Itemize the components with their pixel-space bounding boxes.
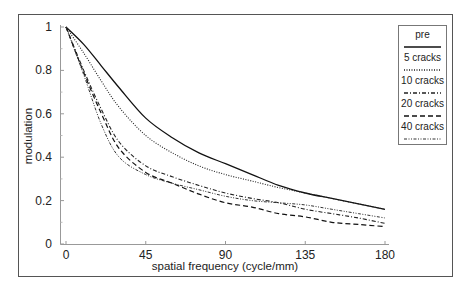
legend-label-pre: pre bbox=[415, 29, 430, 40]
x-axis-title: spatial frequency (cycle/mm) bbox=[152, 260, 299, 272]
axes bbox=[61, 25, 390, 245]
series-group bbox=[66, 27, 385, 227]
x-tick-label: 0 bbox=[63, 248, 70, 262]
series-line-40-cracks bbox=[66, 27, 385, 218]
series-line-20-cracks bbox=[66, 27, 385, 227]
y-tick-label: 0.8 bbox=[35, 63, 52, 77]
y-tick-label: 0.6 bbox=[35, 107, 52, 121]
outer-frame bbox=[19, 15, 453, 277]
legend-label-40-cracks: 40 cracks bbox=[401, 121, 444, 132]
y-tick-label: 0.2 bbox=[35, 194, 52, 208]
ticks: 00.20.40.60.8104590135180 bbox=[35, 20, 395, 262]
x-tick-label: 180 bbox=[375, 248, 395, 262]
legend: pre5 cracks10 cracks20 cracks40 cracks bbox=[399, 26, 447, 145]
x-tick-label: 45 bbox=[139, 248, 153, 262]
legend-label-10-cracks: 10 cracks bbox=[401, 75, 444, 86]
series-line-pre bbox=[66, 27, 385, 209]
y-tick-label: 0.4 bbox=[35, 150, 52, 164]
y-tick-label: 1 bbox=[45, 20, 52, 34]
y-axis-title: modulation bbox=[22, 108, 34, 164]
x-tick-label: 135 bbox=[295, 248, 315, 262]
legend-label-20-cracks: 20 cracks bbox=[401, 98, 444, 109]
series-line-5-cracks bbox=[66, 27, 385, 209]
series-line-10-cracks bbox=[66, 27, 385, 223]
mtf-chart: 00.20.40.60.8104590135180 spatial freque… bbox=[0, 0, 467, 287]
y-tick-label: 0 bbox=[45, 237, 52, 251]
legend-label-5-cracks: 5 cracks bbox=[404, 52, 441, 63]
